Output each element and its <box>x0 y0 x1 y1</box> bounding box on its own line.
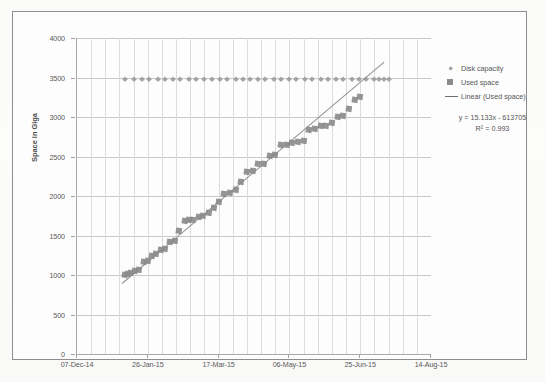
y-axis-tick-mark <box>71 78 75 79</box>
y-axis-tick-mark <box>71 275 75 276</box>
x-axis-tick-label: 06-May-15 <box>266 360 312 369</box>
gridline-horizontal <box>77 157 431 158</box>
gridline-vertical <box>247 38 248 354</box>
y-axis-tick-label: 3500 <box>21 74 65 83</box>
y-axis-tick-label: 3000 <box>21 113 65 122</box>
legend-item-used-space[interactable]: Used space <box>445 76 537 90</box>
data-point-marker <box>318 77 323 82</box>
gridline-horizontal <box>77 117 431 118</box>
gridline-vertical <box>162 38 163 354</box>
data-point-marker <box>247 77 252 82</box>
diamond-marker-icon <box>448 66 453 71</box>
data-point-marker <box>349 77 354 82</box>
gridline-vertical <box>289 38 290 354</box>
chart-frame: Space in Giga 40003500300025002000150010… <box>12 11 527 360</box>
trendline-equation-annotation: y = 15.133x - 613705 R² = 0.993 <box>445 112 540 134</box>
equation-text: y = 15.133x - 613705 <box>459 113 527 122</box>
data-point-marker <box>193 77 198 82</box>
data-point-marker <box>278 77 283 82</box>
chart-screenshot: Space in Giga 40003500300025002000150010… <box>0 0 545 382</box>
x-axis-tick-label: 25-Jun-15 <box>337 360 383 369</box>
legend-item-disk-capacity[interactable]: Disk capacity <box>445 62 537 76</box>
data-point-marker <box>162 77 167 82</box>
data-point-marker <box>357 94 364 101</box>
x-axis-tick-label: 07-Dec-14 <box>54 360 100 369</box>
y-axis-tick-label: 4000 <box>21 34 65 43</box>
gridline-vertical <box>403 38 404 354</box>
gridline-vertical <box>346 38 347 354</box>
data-point-marker <box>376 77 381 82</box>
x-axis-tick-label: 17-Mar-15 <box>196 360 242 369</box>
gridline-vertical <box>332 38 333 354</box>
data-point-marker <box>310 77 315 82</box>
legend-label: Disk capacity <box>461 64 503 73</box>
data-point-marker <box>209 77 214 82</box>
data-point-marker <box>328 119 335 126</box>
x-axis-tick-label: 26-Jan-15 <box>125 360 171 369</box>
x-axis-tick-label: 14-Aug-15 <box>408 360 454 369</box>
y-axis-tick-mark <box>71 236 75 237</box>
y-axis-tick-mark <box>71 354 75 355</box>
y-axis-tick-mark <box>71 38 75 39</box>
y-axis-tick-mark <box>71 157 75 158</box>
data-point-marker <box>325 77 330 82</box>
data-point-marker <box>340 113 347 120</box>
legend-label: Linear (Used space) <box>461 92 526 101</box>
y-axis-tick-label: 1500 <box>21 232 65 241</box>
y-axis-tick-label: 2500 <box>21 153 65 162</box>
r-squared-text: R² = 0.993 <box>445 123 540 134</box>
gridline-vertical <box>148 38 149 354</box>
gridline-vertical <box>134 38 135 354</box>
plot-area <box>76 38 430 354</box>
y-axis-tick-mark <box>71 117 75 118</box>
gridline-vertical <box>105 38 106 354</box>
legend-item-linear-trendline[interactable]: Linear (Used space) <box>445 90 537 104</box>
y-axis-tick-label: 2000 <box>21 192 65 201</box>
data-point-marker <box>155 77 160 82</box>
data-point-marker <box>240 77 245 82</box>
gridline-horizontal <box>77 38 431 39</box>
y-axis-tick-mark <box>71 196 75 197</box>
legend-label: Used space <box>461 78 499 87</box>
gridline-horizontal <box>77 315 431 316</box>
gridline-vertical <box>233 38 234 354</box>
data-point-marker <box>300 137 307 144</box>
gridline-vertical <box>389 38 390 354</box>
gridline-vertical <box>417 38 418 354</box>
gridline-vertical <box>190 38 191 354</box>
gridline-vertical <box>176 38 177 354</box>
x-axis-line <box>77 354 431 355</box>
square-marker-icon <box>447 79 453 85</box>
gridline-vertical <box>275 38 276 354</box>
gridline-vertical <box>119 38 120 354</box>
gridline-vertical <box>261 38 262 354</box>
chart-legend: Disk capacity Used space Linear (Used sp… <box>445 62 537 104</box>
y-axis-tick-label: 1000 <box>21 271 65 280</box>
y-axis-tick-label: 0 <box>21 350 65 359</box>
gridline-vertical <box>318 38 319 354</box>
gridline-vertical <box>360 38 361 354</box>
gridline-vertical <box>304 38 305 354</box>
line-marker-icon <box>445 96 458 97</box>
gridline-horizontal <box>77 196 431 197</box>
data-point-marker <box>345 105 352 112</box>
data-point-marker <box>131 77 136 82</box>
gridline-vertical <box>91 38 92 354</box>
data-point-marker <box>386 77 391 82</box>
data-point-marker <box>233 77 238 82</box>
gridline-vertical <box>374 38 375 354</box>
y-axis-tick-label: 500 <box>21 311 65 320</box>
gridline-vertical <box>204 38 205 354</box>
y-axis-tick-mark <box>71 315 75 316</box>
gridline-horizontal <box>77 236 431 237</box>
